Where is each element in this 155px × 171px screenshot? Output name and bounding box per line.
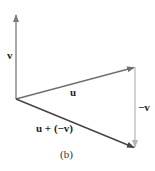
label-v: v: [7, 49, 13, 61]
vector-subtraction-diagram: v u −v u + (−v) (b): [0, 0, 155, 171]
label-neg-v: −v: [138, 101, 150, 113]
label-u: u: [70, 86, 76, 98]
caption: (b): [60, 148, 73, 161]
vector-u-plus-neg-v-arrow: [16, 99, 134, 148]
label-u-plus-neg-v: u + (−v): [36, 122, 73, 135]
